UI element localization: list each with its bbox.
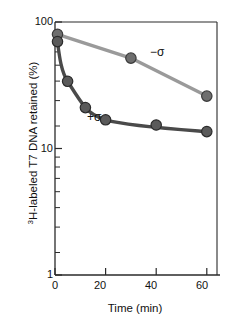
x-tick-label-20: 20 — [91, 280, 109, 291]
data-point — [100, 115, 110, 125]
y-axis-title: 3H-labeled T7 DNA retained (%) — [27, 48, 39, 238]
series-label-plus-sigma: +σ — [87, 110, 101, 124]
data-point — [202, 91, 212, 101]
x-axis-title: Time (min) — [50, 302, 220, 314]
x-tick-label-40: 40 — [142, 280, 160, 291]
data-point — [202, 126, 212, 136]
x-tick-label-60: 60 — [193, 280, 211, 291]
y-axis-title-superscript: 3 — [26, 220, 35, 224]
data-point — [62, 76, 72, 86]
y-tick-label-1: 1 — [37, 269, 53, 280]
data-point — [151, 120, 161, 130]
data-point — [52, 36, 62, 46]
series-label-minus-sigma: −σ — [150, 45, 164, 59]
x-tick-label-0: 0 — [47, 280, 63, 291]
y-tick-label-100: 100 — [27, 16, 53, 27]
data-point — [126, 53, 136, 63]
figure-container: 100 10 1 0 20 40 60 Time (min) 3H-labele… — [0, 0, 236, 327]
series-minus-sigma — [52, 29, 212, 101]
y-minor-ticks-lower — [55, 157, 60, 252]
y-axis-title-main: H-labeled T7 DNA retained (%) — [27, 62, 39, 220]
x-major-ticks — [55, 268, 207, 275]
